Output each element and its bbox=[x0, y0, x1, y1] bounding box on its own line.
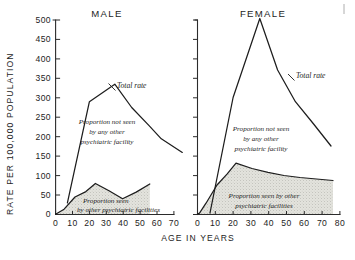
x-tick-label: 30 bbox=[246, 218, 256, 228]
female-not-seen-label-line1: Proportion not seen bbox=[232, 125, 290, 133]
male-seen-label-line1: Proportion seen bbox=[82, 197, 129, 205]
male-not-seen-label-line3: psychiatric facility bbox=[80, 138, 135, 146]
female-not-seen-label-line2: by any other bbox=[243, 135, 279, 143]
male-not-seen-label-line1: Proportion not seen bbox=[78, 118, 136, 126]
x-tick-label: 10 bbox=[210, 218, 220, 228]
panel-male-title: MALE bbox=[91, 8, 122, 19]
x-tick-label: 40 bbox=[118, 218, 128, 228]
x-tick-label: 30 bbox=[101, 218, 111, 228]
y-tick-label: 150 bbox=[35, 151, 51, 161]
female-not-seen-label-line3: psychiatric facility bbox=[234, 145, 289, 153]
chart-figure: RATE PER 100,000 POPULATION MALE bbox=[0, 0, 355, 260]
x-tick-label: 10 bbox=[67, 218, 77, 228]
y-tick-label: 400 bbox=[35, 54, 51, 64]
x-tick-label: 70 bbox=[317, 218, 327, 228]
female-seen-label-line2: psychiatric facilities bbox=[234, 202, 293, 210]
panel-female-title: FEMALE bbox=[240, 8, 286, 19]
y-tick-label: 500 bbox=[35, 15, 51, 25]
x-tick-label: 70 bbox=[169, 218, 179, 228]
male-total-rate-label: Total rate bbox=[117, 81, 147, 90]
male-not-seen-label-line2: by any other bbox=[89, 128, 125, 136]
y-axis-title: RATE PER 100,000 POPULATION bbox=[5, 52, 15, 215]
female-seen-label-line1: Proportion seen by other bbox=[228, 192, 300, 200]
female-x-tick-labels: 0 10 20 30 40 50 60 70 80 bbox=[195, 218, 345, 228]
y-tick-label: 0 bbox=[46, 209, 51, 219]
x-axis-title: AGE IN YEARS bbox=[161, 233, 235, 243]
male-seen-label-line2: by other psychiatric facilities bbox=[77, 206, 160, 214]
y-tick-label: 250 bbox=[35, 112, 51, 122]
x-tick-label: 40 bbox=[264, 218, 274, 228]
x-tick-label: 80 bbox=[335, 218, 345, 228]
x-tick-label: 60 bbox=[152, 218, 162, 228]
x-tick-label: 20 bbox=[228, 218, 238, 228]
y-tick-label: 450 bbox=[35, 34, 51, 44]
female-total-rate-label: Total rate bbox=[296, 71, 326, 80]
x-tick-label: 60 bbox=[299, 218, 309, 228]
y-tick-label: 200 bbox=[35, 132, 51, 142]
x-tick-label: 20 bbox=[84, 218, 94, 228]
x-tick-label: 50 bbox=[135, 218, 145, 228]
x-tick-label: 0 bbox=[53, 218, 58, 228]
x-tick-label: 0 bbox=[195, 218, 200, 228]
y-tick-label: 300 bbox=[35, 93, 51, 103]
y-tick-label: 350 bbox=[35, 73, 51, 83]
y-tick-label: 100 bbox=[35, 171, 51, 181]
chart-svg: RATE PER 100,000 POPULATION MALE bbox=[0, 0, 355, 260]
x-tick-label: 50 bbox=[281, 218, 291, 228]
y-tick-label: 50 bbox=[41, 190, 51, 200]
